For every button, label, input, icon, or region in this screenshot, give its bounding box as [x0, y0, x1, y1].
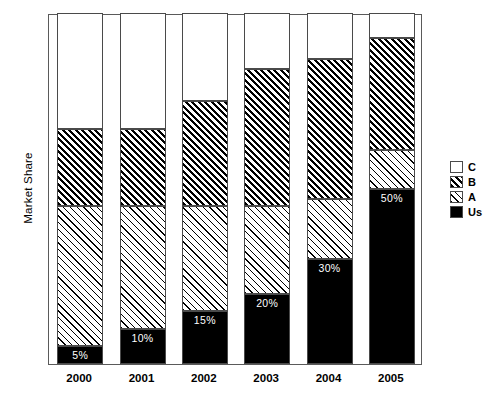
bar-2000: 5% [57, 15, 103, 364]
x-tick-2002: 2002 [174, 372, 234, 384]
bar-2002: 15% [182, 15, 228, 364]
bar-segment-2001-a [120, 206, 166, 329]
legend-label-us: Us [468, 207, 482, 218]
bar-segment-2003-c [244, 13, 290, 69]
legend-label-c: C [468, 162, 476, 173]
bar-2004: 30% [307, 15, 353, 364]
x-tick-2004: 2004 [299, 372, 359, 384]
bar-2003: 20% [244, 15, 290, 364]
legend-item-c: C [450, 160, 498, 174]
x-tick-2001: 2001 [112, 372, 172, 384]
x-tick-2003: 2003 [236, 372, 296, 384]
bar-segment-2002-a [182, 206, 228, 311]
x-tick-2000: 2000 [49, 372, 109, 384]
bar-segment-2004-c [307, 13, 353, 59]
data-label-2002: 15% [183, 315, 227, 326]
y-axis-title: Market Share [22, 113, 34, 263]
legend-swatch-a [450, 191, 463, 203]
data-label-2000: 5% [58, 350, 102, 361]
bar-segment-2005-a [369, 150, 415, 189]
bar-segment-2003-us: 20% [244, 294, 290, 364]
legend-item-a: A [450, 190, 498, 204]
legend-swatch-c [450, 161, 463, 173]
bar-segment-2004-us: 30% [307, 259, 353, 364]
data-label-2004: 30% [308, 263, 352, 274]
bar-segment-2002-b [182, 101, 228, 206]
bar-segment-2004-a [307, 199, 353, 259]
data-label-2001: 10% [121, 333, 165, 344]
bar-segment-2005-us: 50% [369, 189, 415, 365]
stacked-bar-chart: Market Share 5%10%15%20%30%50% 200020012… [0, 0, 502, 407]
legend-swatch-b [450, 176, 463, 188]
data-label-2005: 50% [370, 193, 414, 204]
legend-label-a: A [468, 192, 476, 203]
bar-segment-2001-b [120, 129, 166, 206]
legend-item-b: B [450, 175, 498, 189]
bar-2001: 10% [120, 15, 166, 364]
x-tick-2005: 2005 [361, 372, 421, 384]
legend-swatch-us [450, 206, 463, 218]
bar-segment-2000-b [57, 129, 103, 206]
legend-item-us: Us [450, 205, 498, 219]
bar-segment-2001-us: 10% [120, 329, 166, 364]
bar-segment-2003-b [244, 69, 290, 206]
bar-2005: 50% [369, 15, 415, 364]
legend-label-b: B [468, 177, 476, 188]
bar-segment-2005-c [369, 13, 415, 38]
bar-segment-2002-us: 15% [182, 311, 228, 364]
bar-segment-2004-b [307, 59, 353, 199]
plot-area: 5%10%15%20%30%50% [48, 14, 422, 365]
data-label-2003: 20% [245, 298, 289, 309]
bar-segment-2003-a [244, 206, 290, 294]
bar-segment-2000-us: 5% [57, 346, 103, 364]
bar-segment-2005-b [369, 38, 415, 150]
bar-segment-2000-c [57, 13, 103, 129]
legend: CBAUs [450, 160, 498, 220]
bar-segment-2002-c [182, 13, 228, 101]
bar-segment-2000-a [57, 206, 103, 346]
bar-segment-2001-c [120, 13, 166, 129]
